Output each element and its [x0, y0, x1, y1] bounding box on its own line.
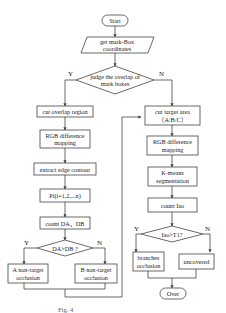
- a-non-target-occlusion-box: A non-target occlusion: [8, 264, 48, 283]
- svg-text:count Iao: count Iao: [161, 202, 184, 209]
- svg-text:（A/B/C）: （A/B/C）: [158, 116, 186, 123]
- svg-text:get mark-Box: get mark-Box: [100, 38, 135, 45]
- rgb-mapping-right-box: RGB difference mapping: [147, 136, 198, 155]
- svg-text:B non-target: B non-target: [81, 266, 112, 273]
- svg-text:RGB difference: RGB difference: [45, 132, 84, 139]
- count-iao-box: count Iao: [148, 198, 197, 212]
- svg-text:mapping: mapping: [162, 146, 184, 153]
- svg-text:mapping: mapping: [54, 139, 76, 146]
- cut-overlap-box: cut overlap region: [37, 106, 93, 117]
- branches-occlusion-box: branches occlusion: [133, 252, 164, 271]
- svg-text:A non-target: A non-target: [13, 266, 44, 273]
- svg-text:judge the overlap of: judge the overlap of: [89, 73, 141, 80]
- flowchart: Start get mark-Box coordinates judge the…: [0, 0, 226, 313]
- judge-overlap-decision: judge the overlap of mark boxes: [76, 66, 154, 94]
- kmeans-segmentation-box: K-means segmentation: [148, 167, 197, 186]
- over-terminal: Over: [160, 288, 186, 299]
- iao-no-label: N: [205, 225, 210, 233]
- da-yes-label: Y: [24, 239, 29, 247]
- svg-text:Iao>T1?: Iao>T1?: [161, 231, 182, 238]
- start-label: Start: [109, 17, 121, 24]
- edge-da-no: [93, 248, 105, 264]
- b-non-target-occlusion-box: B non-target occlusion: [75, 264, 117, 283]
- svg-text:coordinates: coordinates: [103, 45, 132, 52]
- svg-text:mark boxes: mark boxes: [101, 80, 130, 87]
- figure-caption: Fig. 4: [58, 306, 74, 313]
- svg-text:branches: branches: [138, 254, 161, 261]
- svg-text:segmentation: segmentation: [156, 177, 189, 184]
- iao-yes-label: Y: [134, 225, 139, 233]
- judge-no-label: N: [159, 70, 164, 78]
- start-terminal: Start: [102, 15, 128, 26]
- count-da-db-box: count DA、DB: [40, 217, 90, 229]
- edge-judge-yes: [65, 80, 76, 106]
- svg-text:Pi(i=1,2,...n): Pi(i=1,2,...n): [49, 192, 81, 200]
- extract-edge-box: extract edge contour: [34, 163, 96, 175]
- uncovered-box: uncovered: [179, 254, 214, 269]
- da-no-label: N: [97, 239, 102, 247]
- edge-merge-ab: [24, 283, 105, 289]
- svg-text:K-means: K-means: [161, 169, 184, 176]
- judge-yes-label: Y: [68, 70, 73, 78]
- edge-iao-no: [203, 234, 210, 252]
- svg-text:cut overlap region: cut overlap region: [42, 108, 87, 115]
- svg-text:Over: Over: [167, 290, 179, 297]
- svg-text:DA>DB ?: DA>DB ?: [52, 245, 78, 252]
- rgb-mapping-left-box: RGB difference mapping: [40, 130, 90, 148]
- pi-box: Pi(i=1,2,...n): [40, 189, 90, 202]
- svg-text:occlusion: occlusion: [84, 274, 108, 281]
- svg-text:occlusion: occlusion: [137, 262, 161, 269]
- svg-text:extract edge contour: extract edge contour: [40, 166, 91, 173]
- edge-judge-no: [154, 80, 172, 106]
- cut-target-area-box: cut target area （A/B/C）: [145, 106, 200, 125]
- edge-da-yes: [24, 248, 37, 264]
- svg-text:uncovered: uncovered: [184, 258, 211, 265]
- edge-iao-yes: [136, 234, 141, 252]
- svg-text:occlusion: occlusion: [16, 274, 40, 281]
- svg-text:count DA、DB: count DA、DB: [46, 220, 85, 227]
- svg-text:RGB difference: RGB difference: [153, 138, 192, 145]
- get-coordinates-io: get mark-Box coordinates: [81, 37, 154, 53]
- da-db-decision: DA>DB ?: [37, 240, 93, 256]
- iao-decision: Iao>T1?: [141, 226, 203, 242]
- svg-text:cut target area: cut target area: [155, 108, 190, 115]
